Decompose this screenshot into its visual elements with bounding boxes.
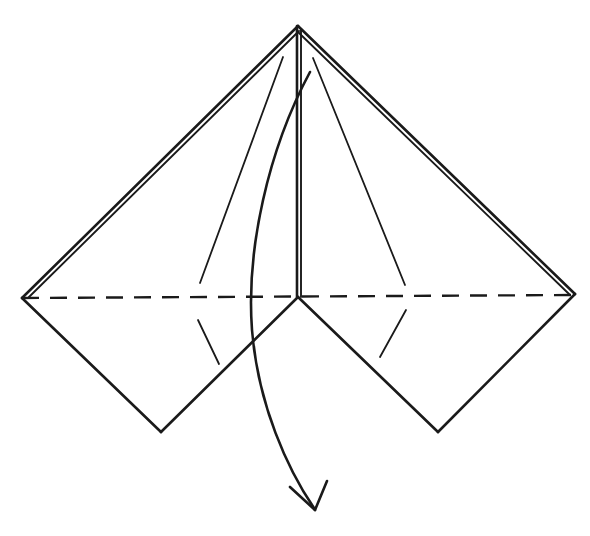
- inner-left-lower-edge: [161, 297, 298, 432]
- fold-arrow-curve: [251, 72, 314, 508]
- inner-right-lower-edge: [298, 297, 438, 432]
- outer-right-lower-edge: [438, 294, 575, 432]
- fold-arrow-head-right-barb: [315, 481, 327, 510]
- outer-left-upper-edge-outer: [22, 26, 298, 298]
- crease-left-lower: [198, 320, 219, 364]
- outer-right-upper-edge-inner: [298, 32, 569, 294]
- crease-right-lower: [380, 310, 406, 357]
- origami-diagram-canvas: [0, 0, 590, 536]
- outer-left-upper-edge-inner: [29, 31, 299, 297]
- outer-left-lower-edge: [22, 298, 161, 432]
- fold-diagram-svg: [0, 0, 590, 536]
- outer-right-upper-edge-outer: [298, 26, 575, 294]
